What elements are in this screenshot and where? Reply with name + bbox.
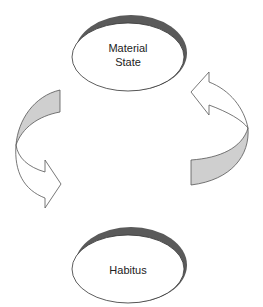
arrow-left-down-icon — [16, 90, 61, 208]
arrow-band — [16, 90, 60, 145]
arrow-right-up-icon — [191, 72, 248, 185]
arrow-band — [191, 128, 248, 185]
node-label-material-state: Material State — [98, 41, 158, 69]
arrow-body — [191, 72, 248, 128]
node-label-habitus: Habitus — [98, 263, 158, 277]
arrow-body — [16, 145, 61, 208]
label-line-1: Habitus — [98, 263, 158, 277]
label-line-1: Material — [98, 41, 158, 55]
label-line-2: State — [98, 55, 158, 69]
